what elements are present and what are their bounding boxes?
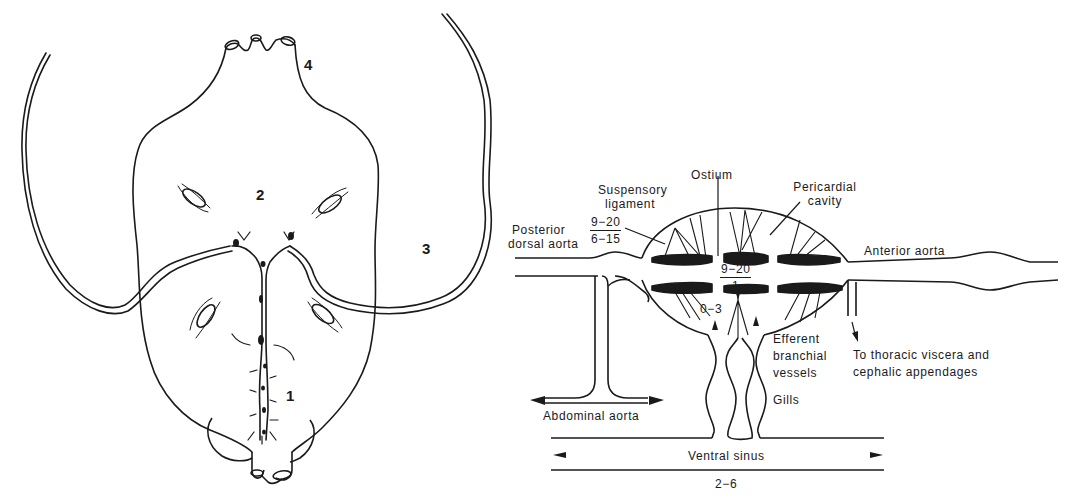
label-anterior-aorta: Anterior aorta: [864, 244, 945, 258]
pressure-branchial: 0−3: [700, 302, 722, 316]
posterior-lobe-right: [290, 420, 314, 462]
region-label-2: 2: [256, 186, 264, 203]
heart-outline: [133, 45, 379, 452]
region-label-1: 1: [286, 387, 294, 404]
label-pericardial-cavity: Pericardial cavity: [793, 180, 857, 208]
pressure-ventral-sinus: 2−6: [715, 477, 737, 491]
label-gills: Gills: [773, 393, 799, 407]
label-ostium: Ostium: [691, 168, 733, 182]
label-efferent-branchial-vessels: Efferent branchial vessels: [773, 331, 827, 382]
label-suspensory-ligament: Suspensory ligament: [598, 183, 662, 211]
label-abdominal-aorta: Abdominal aorta: [543, 409, 639, 423]
pressure-posterior-aorta: 9−20 6−15: [590, 215, 621, 246]
pressure-heart: 9−20 1: [720, 262, 751, 293]
label-posterior-dorsal-aorta: Posterior dorsal aorta: [508, 223, 579, 251]
label-ventral-sinus: Ventral sinus: [688, 449, 765, 463]
region-label-4: 4: [304, 56, 312, 73]
label-to-thoracic-viscera: To thoracic viscera and cephalic appenda…: [853, 347, 990, 381]
region-label-3: 3: [422, 240, 430, 257]
